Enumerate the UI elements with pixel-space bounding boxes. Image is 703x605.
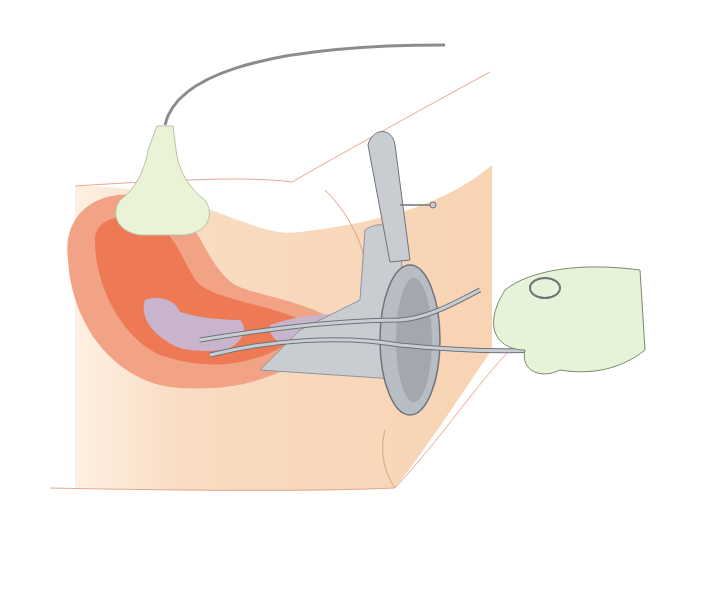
medical-illustration	[0, 0, 703, 605]
gloved-hand	[494, 267, 645, 374]
